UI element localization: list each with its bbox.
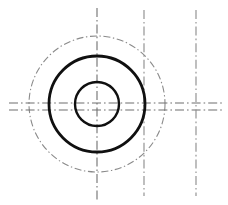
drawing-svg: [0, 0, 228, 205]
technical-drawing-canvas: [0, 0, 228, 205]
